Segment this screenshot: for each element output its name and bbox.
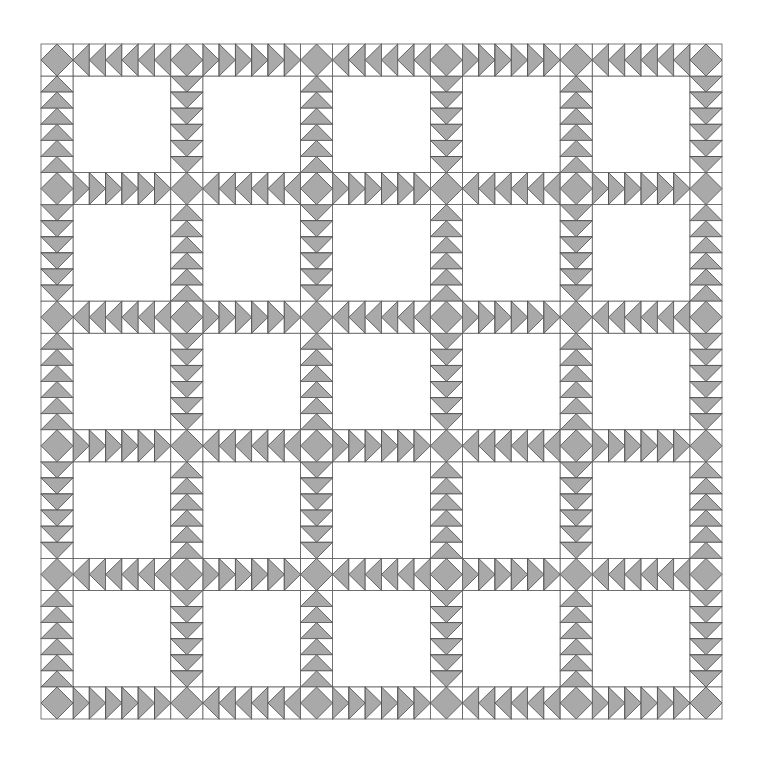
plain-block bbox=[203, 205, 301, 302]
plain-block bbox=[203, 462, 301, 559]
plain-block bbox=[462, 76, 560, 173]
plain-block bbox=[462, 333, 560, 430]
plain-block bbox=[462, 205, 560, 302]
plain-block bbox=[592, 333, 690, 430]
plain-block bbox=[592, 205, 690, 302]
plain-block bbox=[73, 333, 171, 430]
plain-block bbox=[462, 462, 560, 559]
plain-block bbox=[333, 333, 431, 430]
plain-block bbox=[73, 76, 171, 173]
quilt-diagram bbox=[0, 0, 758, 764]
plain-block bbox=[333, 462, 431, 559]
plain-block bbox=[73, 590, 171, 687]
plain-block bbox=[73, 462, 171, 559]
plain-block bbox=[462, 590, 560, 687]
plain-block bbox=[203, 333, 301, 430]
plain-block bbox=[333, 590, 431, 687]
plain-block bbox=[333, 205, 431, 302]
plain-block bbox=[592, 462, 690, 559]
plain-block bbox=[333, 76, 431, 173]
plain-blocks bbox=[73, 76, 690, 687]
plain-block bbox=[73, 205, 171, 302]
plain-block bbox=[592, 76, 690, 173]
plain-block bbox=[592, 590, 690, 687]
plain-block bbox=[203, 76, 301, 173]
plain-block bbox=[203, 590, 301, 687]
